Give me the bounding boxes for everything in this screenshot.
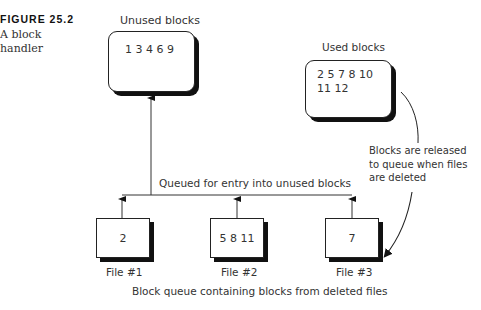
file-3-box: 7 xyxy=(325,218,379,258)
queue-label: Queued for entry into unused blocks xyxy=(159,177,351,189)
queue-caption: Block queue containing blocks from delet… xyxy=(132,285,388,297)
file-3-label: File #3 xyxy=(336,266,372,278)
file-1-blocks: 2 xyxy=(97,231,149,246)
file-2-label: File #2 xyxy=(221,266,257,278)
file-1-box: 2 xyxy=(96,218,150,258)
file-2-box: 5 8 11 xyxy=(210,218,264,258)
unused-blocks-label: Unused blocks xyxy=(120,14,200,27)
file-1-label: File #1 xyxy=(106,266,142,278)
used-blocks-line1: 2 5 7 8 10 xyxy=(317,67,373,82)
release-note-line2: to queue when files xyxy=(369,158,467,172)
release-note: Blocks are released to queue when files … xyxy=(369,144,467,185)
unused-blocks-box: 1 3 4 6 9 xyxy=(108,31,195,92)
release-note-line1: Blocks are released xyxy=(369,144,467,158)
release-note-line3: are deleted xyxy=(369,171,467,185)
used-blocks-box: 2 5 7 8 10 11 12 xyxy=(305,60,392,118)
file-2-blocks: 5 8 11 xyxy=(211,231,263,246)
unused-blocks-values: 1 3 4 6 9 xyxy=(125,42,174,57)
used-blocks-label: Used blocks xyxy=(322,41,385,53)
used-blocks-line2: 11 12 xyxy=(317,81,349,96)
file-3-blocks: 7 xyxy=(326,231,378,246)
